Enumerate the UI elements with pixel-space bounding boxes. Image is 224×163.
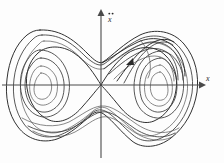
left-well-orbits-group: [20, 50, 69, 117]
y-axis-label: x: [107, 15, 112, 24]
y-axis-label-dot-left: [108, 13, 110, 15]
y-axis-arrowhead: [98, 9, 105, 16]
orbit-left-inner-1: [34, 73, 52, 99]
phase-portrait-canvas: x x: [0, 0, 224, 163]
phase-portrait-figure: x x: [0, 0, 224, 163]
lower-strand-2: [33, 117, 172, 140]
y-axis-label-dot-right: [112, 13, 114, 15]
orbit-left-outer: [20, 50, 69, 117]
x-axis-arrowhead: [199, 82, 206, 89]
orbit-right-inner-1: [150, 72, 168, 100]
homoclinic-tangle-group: [102, 39, 185, 83]
x-axis-label: x: [205, 74, 210, 83]
